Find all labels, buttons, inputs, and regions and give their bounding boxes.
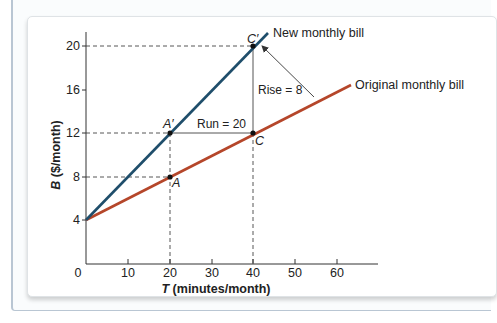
x-tick-20: 20 — [163, 266, 177, 280]
x-tick-50: 50 — [288, 266, 302, 280]
y-tick-20: 20 — [66, 39, 80, 53]
y-axis-title: B ($/month) — [49, 120, 63, 189]
x-tick-40: 40 — [246, 266, 260, 280]
x-tick-0: 0 — [75, 266, 82, 280]
new-bill-label: New monthly bill — [273, 26, 364, 40]
x-tick-10: 10 — [121, 266, 135, 280]
x-tick-60: 60 — [330, 266, 344, 280]
guide-lines — [86, 46, 253, 264]
original-bill-label: Original monthly bill — [355, 78, 464, 92]
point-label-c-prime: C′ — [247, 32, 259, 46]
point-label-a: A — [171, 176, 180, 190]
y-tick-16: 16 — [66, 83, 80, 97]
y-tick-8: 8 — [73, 170, 80, 184]
point-label-c: C — [255, 134, 265, 148]
data-points — [167, 43, 255, 179]
x-tick-30: 30 — [205, 266, 219, 280]
run-annotation: Run = 20 — [197, 117, 246, 131]
point-label-a-prime: A′ — [162, 117, 174, 131]
y-tick-4: 4 — [73, 213, 80, 227]
original-bill-line — [86, 85, 351, 220]
x-axis-title: T (minutes/month) — [161, 282, 270, 296]
y-tick-12: 12 — [66, 126, 80, 140]
rise-annotation: Rise = 8 — [258, 83, 303, 97]
